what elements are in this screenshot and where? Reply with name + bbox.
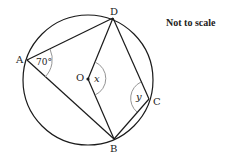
angle-label-y: y xyxy=(135,91,142,102)
angle-label-A: 70° xyxy=(36,57,52,67)
segment-AD xyxy=(27,18,113,60)
point-label-C: C xyxy=(153,96,161,107)
center-point xyxy=(86,77,89,80)
circle-theorem-diagram: D A O C B 70° x y Not to scale xyxy=(0,0,234,161)
point-label-D: D xyxy=(110,6,118,17)
not-to-scale-note: Not to scale xyxy=(166,17,216,28)
segment-OD xyxy=(88,18,113,79)
segment-OB xyxy=(88,79,114,139)
point-label-A: A xyxy=(15,54,24,65)
point-label-O: O xyxy=(76,72,84,83)
segment-AB xyxy=(27,60,114,139)
point-label-B: B xyxy=(110,143,117,154)
segment-DC xyxy=(113,18,149,99)
angle-label-x: x xyxy=(94,73,100,84)
